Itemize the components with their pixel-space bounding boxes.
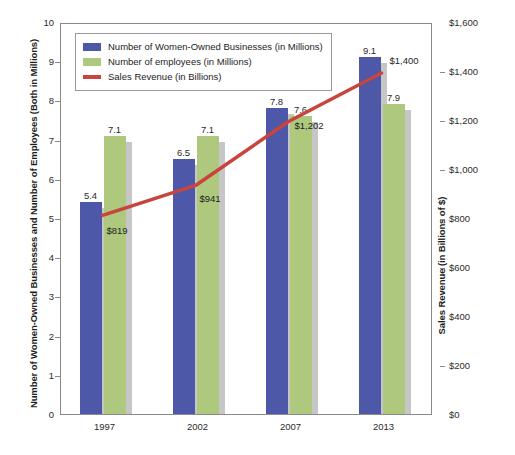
y-right-tick-label: $1,400 — [449, 67, 493, 77]
y-right-tick-mark — [440, 219, 445, 220]
bar-employees-2007[interactable] — [290, 116, 312, 414]
legend-item-label: Number of Women-Owned Businesses (in Mil… — [108, 42, 323, 52]
y-right-tick-label: $1,000 — [449, 165, 493, 175]
y-left-tick-label: 2 — [24, 332, 54, 342]
bar-value-employees-1997: 7.1 — [108, 124, 121, 135]
y-right-tick-label: $1,200 — [449, 116, 493, 126]
y-right-tick-label: $1,600 — [449, 18, 493, 28]
legend-item-0[interactable]: Number of Women-Owned Businesses (in Mil… — [83, 40, 323, 54]
y-left-tick-label: 6 — [24, 175, 54, 185]
legend-square-icon — [83, 58, 101, 66]
y-right-tick-label: $200 — [449, 361, 493, 371]
y-left-tick-label: 5 — [24, 214, 54, 224]
y-right-tick-mark — [440, 366, 445, 367]
y-axis-left-ticks: 012345678910 — [22, 23, 54, 415]
y-axis-right-ticks: $0$200$400$600$800$1,000$1,200$1,400$1,6… — [440, 23, 488, 415]
x-axis-label-2013: 2013 — [373, 421, 394, 432]
y-right-tick-mark — [440, 170, 445, 171]
bar-businesses-1997[interactable] — [80, 202, 102, 414]
x-axis-label-2002: 2002 — [187, 421, 208, 432]
bar-value-employees-2007: 7.6 — [294, 104, 307, 115]
legend-item-1[interactable]: Number of employees (in Millions) — [83, 55, 323, 69]
x-axis-category-labels: 1997200220072013 — [60, 421, 432, 437]
bar-value-employees-2013: 7.9 — [387, 92, 400, 103]
legend-line-icon — [83, 75, 101, 79]
bar-employees-2002[interactable] — [197, 136, 219, 414]
bar-value-businesses-2007: 7.8 — [270, 96, 283, 107]
legend-item-label: Sales Revenue (in Billions) — [108, 72, 222, 82]
legend-item-label: Number of employees (in Millions) — [108, 57, 252, 67]
bar-value-businesses-2013: 9.1 — [363, 45, 376, 56]
bar-value-businesses-1997: 5.4 — [84, 190, 97, 201]
y-left-tick-label: 7 — [24, 136, 54, 146]
bar-value-employees-2002: 7.1 — [201, 124, 214, 135]
revenue-value-2002: $941 — [200, 193, 221, 204]
x-axis-label-1997: 1997 — [94, 421, 115, 432]
revenue-value-2013: $1,400 — [390, 55, 419, 66]
y-left-tick-label: 0 — [24, 410, 54, 420]
y-left-tick-label: 3 — [24, 292, 54, 302]
bar-employees-2013[interactable] — [383, 104, 405, 414]
y-right-tick-label: $800 — [449, 214, 493, 224]
chart-legend: Number of Women-Owned Businesses (in Mil… — [75, 33, 332, 91]
plot-area: 5.47.16.57.17.87.69.17.9 $819$941$1,202$… — [60, 23, 432, 415]
bar-businesses-2002[interactable] — [173, 159, 195, 414]
revenue-value-1997: $819 — [107, 225, 128, 236]
bar-employees-1997[interactable] — [104, 136, 126, 414]
revenue-value-2007: $1,202 — [295, 120, 324, 131]
y-left-tick-label: 10 — [24, 18, 54, 28]
y-right-tick-label: $600 — [449, 263, 493, 273]
chart-container: Number of Women-Owned Businesses and Num… — [0, 0, 515, 455]
y-right-tick-label: $0 — [449, 410, 493, 420]
legend-item-2[interactable]: Sales Revenue (in Billions) — [83, 70, 323, 84]
y-left-tick-label: 8 — [24, 96, 54, 106]
y-right-tick-mark — [440, 121, 445, 122]
revenue-line[interactable] — [103, 73, 382, 215]
bar-businesses-2007[interactable] — [266, 108, 288, 414]
legend-square-icon — [83, 43, 101, 51]
y-right-tick-mark — [440, 317, 445, 318]
y-left-tick-label: 4 — [24, 253, 54, 263]
x-axis-label-2007: 2007 — [280, 421, 301, 432]
y-right-tick-mark — [440, 268, 445, 269]
y-left-tick-label: 1 — [24, 371, 54, 381]
bar-value-businesses-2002: 6.5 — [177, 147, 190, 158]
y-right-tick-label: $400 — [449, 312, 493, 322]
y-right-tick-mark — [440, 72, 445, 73]
bar-businesses-2013[interactable] — [359, 57, 381, 414]
y-left-tick-label: 9 — [24, 57, 54, 67]
